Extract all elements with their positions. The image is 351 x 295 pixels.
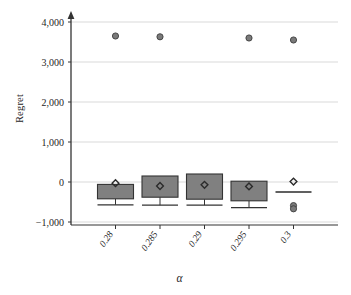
outlier-point <box>246 35 252 41</box>
box-body <box>231 181 267 201</box>
y-tick-label: 3,000 <box>42 57 65 68</box>
outlier-point <box>157 34 163 40</box>
y-axis-ticks: −1,00001,0002,0003,0004,000 <box>36 17 71 228</box>
y-tick-label: −1,000 <box>36 217 64 228</box>
x-tick-label: 0.29 <box>186 229 204 249</box>
x-tick-label: 0.285 <box>139 229 160 252</box>
y-axis-arrow <box>68 11 75 19</box>
x-tick-label: 0.295 <box>228 229 249 252</box>
box-plot-group <box>276 37 312 212</box>
x-tick-label: 0.28 <box>97 229 115 249</box>
box-body <box>187 174 223 199</box>
x-axis-label: α <box>0 272 351 284</box>
y-tick-label: 1,000 <box>42 137 65 148</box>
box-plot-group <box>98 33 134 205</box>
plot-canvas: −1,00001,0002,0003,0004,000 0.280.2850.2… <box>0 0 351 295</box>
y-tick-label: 2,000 <box>42 97 65 108</box>
y-tick-label: 0 <box>59 177 64 188</box>
outlier-point <box>112 33 118 39</box>
box-plot-group <box>231 35 267 208</box>
box-plot-group <box>142 34 178 206</box>
box-series <box>98 33 312 212</box>
outlier-point <box>290 206 296 212</box>
box-body <box>142 176 178 197</box>
y-axis-label: Regret <box>14 79 25 139</box>
box-plot-figure: Regret α −1,00001,0002,0003,0004,000 0.2… <box>0 0 351 295</box>
outlier-point <box>290 37 296 43</box>
x-tick-label: 0.3 <box>278 229 293 245</box>
box-plot-group <box>187 174 223 205</box>
y-tick-label: 4,000 <box>42 17 65 28</box>
x-axis-label-text: α <box>176 272 182 284</box>
x-axis-ticks: 0.280.2850.290.2950.3 <box>97 225 293 253</box>
